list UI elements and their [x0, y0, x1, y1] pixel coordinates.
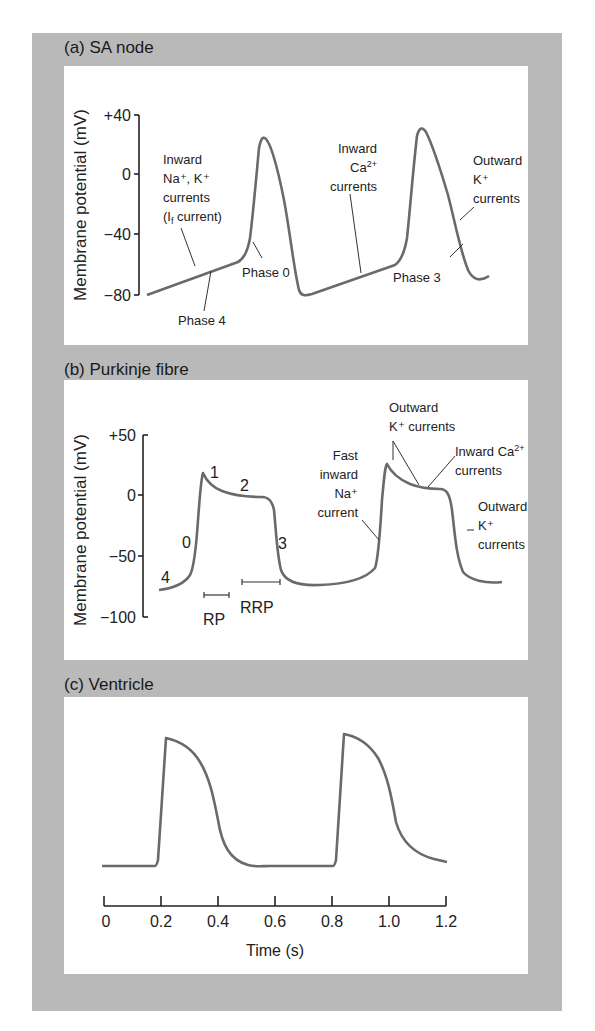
x-axis: [104, 896, 446, 906]
annotation-text: currents: [163, 190, 210, 205]
annotation-text: currents: [478, 537, 525, 552]
x-tick: 0.6: [264, 913, 286, 930]
annotation-outward-k: Outward: [473, 153, 522, 168]
annotation-text: K⁺ currents: [389, 419, 456, 434]
annotation-rrp: RRP: [240, 599, 274, 616]
annotation-rp: RP: [203, 611, 225, 628]
annotation-fast-inward-na: Fast: [333, 448, 359, 463]
panel-b-title: (b) Purkinje fibre: [64, 360, 189, 380]
x-tick: 0: [102, 913, 111, 930]
panel-b-purkinje-fibre: Membrane potential (mV) +50 0 −50 −100 4…: [64, 380, 528, 660]
annotation-inward-na-k: Inward: [163, 152, 202, 167]
y-axis-label: Membrane potential (mV): [71, 434, 90, 626]
annotation-phase-0: Phase 0: [242, 265, 290, 280]
purkinje-trace: [159, 464, 502, 590]
annotation-text: Ca2+: [350, 159, 377, 175]
annotation-text: Na⁺: [334, 486, 358, 501]
refractory-period-markers: [204, 579, 280, 598]
ventricle-chart: 0 0.2 0.4 0.6 0.8 1.0 1.2 Time (s): [64, 697, 528, 974]
panel-c-ventricle: 0 0.2 0.4 0.6 0.8 1.0 1.2 Time (s): [64, 697, 528, 974]
y-axis-label: Membrane potential (mV): [71, 109, 90, 301]
y-tick: −40: [104, 226, 131, 243]
annotation-phase-4: Phase 4: [178, 313, 226, 328]
annotation-text: (If current): [163, 209, 222, 226]
y-tick: −80: [104, 287, 131, 304]
y-tick: +50: [109, 427, 136, 444]
annotation-text: K⁺: [473, 172, 489, 187]
panel-a-title: (a) SA node: [64, 38, 154, 58]
annotation-phase-0: 0: [182, 534, 191, 551]
x-axis-label: Time (s): [246, 942, 304, 959]
ventricle-trace: [102, 734, 447, 866]
y-tick: −100: [100, 609, 136, 626]
annotation-text: inward: [320, 467, 358, 482]
purkinje-chart: Membrane potential (mV) +50 0 −50 −100 4…: [64, 380, 528, 660]
annotation-text: currents: [473, 191, 520, 206]
x-tick: 0.8: [321, 913, 343, 930]
annotation-text: Na⁺, K⁺: [163, 171, 210, 186]
annotation-phase-1: 1: [210, 464, 219, 481]
annotation-outward-k: Outward: [478, 499, 527, 514]
x-tick: 1.2: [435, 913, 457, 930]
panel-a-sa-node: Membrane potential (mV) +40 0 −40 −80 In…: [64, 66, 528, 345]
annotation-inward-ca: Inward: [338, 141, 377, 156]
annotation-text: current: [318, 505, 359, 520]
panel-c-title: (c) Ventricle: [64, 675, 154, 695]
x-tick: 0.4: [207, 913, 229, 930]
y-tick: 0: [122, 166, 131, 183]
sa-node-chart: Membrane potential (mV) +40 0 −40 −80 In…: [64, 66, 528, 345]
y-tick: 0: [127, 487, 136, 504]
annotation-phase-2: 2: [240, 477, 249, 494]
annotation-text: K⁺: [478, 518, 494, 533]
x-tick: 1.0: [378, 913, 400, 930]
y-tick: +40: [104, 107, 131, 124]
y-tick: −50: [109, 548, 136, 565]
annotation-phase-3: 3: [278, 535, 287, 552]
annotation-phase-4: 4: [161, 569, 170, 586]
annotation-inward-ca: Inward Ca2+: [455, 443, 525, 459]
x-tick: 0.2: [150, 913, 172, 930]
annotation-text: currents: [455, 463, 502, 478]
annotation-text: currents: [330, 179, 377, 194]
annotation-phase-3: Phase 3: [393, 270, 441, 285]
annotation-outward-k-top: Outward: [389, 400, 438, 415]
